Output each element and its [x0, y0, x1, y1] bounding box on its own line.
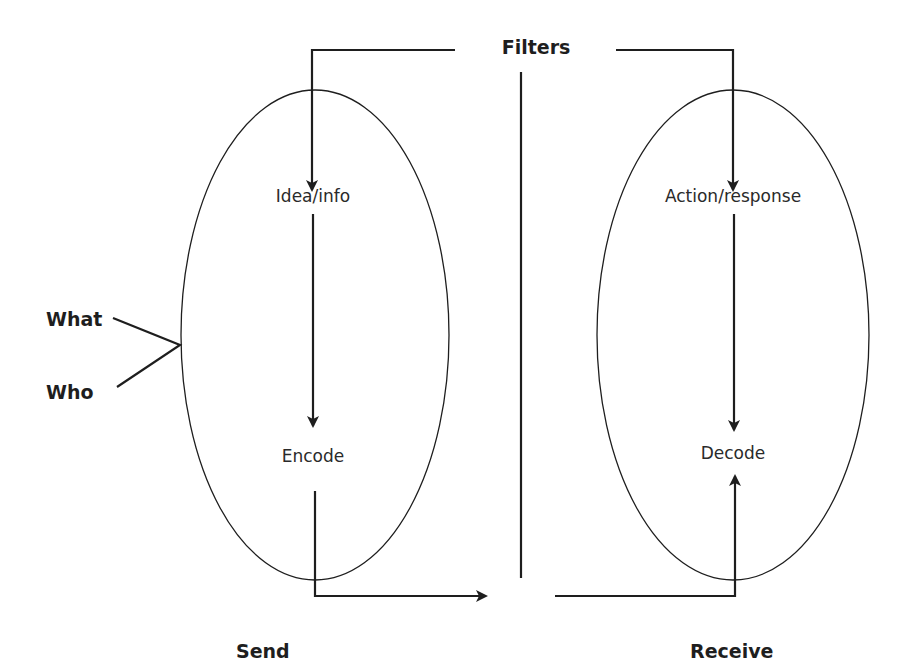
- receive-arrow: [555, 476, 735, 596]
- input-what-label: What: [46, 308, 102, 330]
- node-decode: Decode: [701, 443, 766, 463]
- node-idea-info: Idea/info: [276, 186, 350, 206]
- node-action-response: Action/response: [665, 186, 801, 206]
- input-who-label: Who: [46, 381, 94, 403]
- filters-label: Filters: [502, 36, 571, 58]
- send-label: Send: [236, 640, 290, 662]
- filters-arrow-left: [312, 50, 455, 190]
- communication-model-diagram: [0, 0, 906, 669]
- send-arrow: [315, 491, 486, 596]
- receive-label: Receive: [690, 640, 773, 662]
- what-who-connector: [113, 318, 180, 387]
- node-encode: Encode: [282, 446, 345, 466]
